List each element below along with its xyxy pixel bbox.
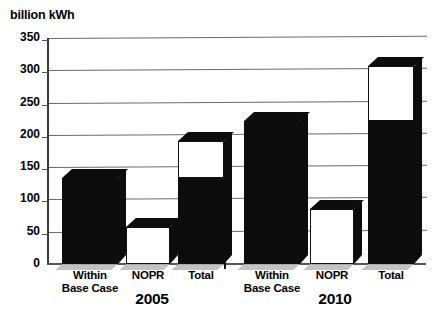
gridline (49, 36, 427, 39)
bar-side-face (300, 112, 308, 264)
bar (310, 209, 354, 264)
x-axis-label-line1: Total (354, 269, 428, 282)
bar-segment (310, 209, 354, 264)
bar-segment-lower (368, 121, 414, 264)
x-axis-group-label: 2005 (117, 290, 187, 308)
y-axis-tick-label: 50 (0, 224, 40, 238)
bar-segment-upper (368, 66, 414, 121)
bar-top-face (62, 169, 128, 178)
bar-segment (62, 178, 118, 264)
y-axis-tick-label: 100 (0, 191, 40, 205)
y-axis-tick-label: 250 (0, 95, 40, 109)
y-axis-tick-mark (42, 40, 48, 41)
bar-top-face (368, 57, 424, 66)
bar-side-face (118, 169, 126, 264)
x-axis-group-label: 2010 (300, 290, 370, 308)
y-axis-tick-label: 150 (0, 159, 40, 173)
x-axis-label-line1: Total (164, 269, 238, 282)
group-separator-tick (224, 258, 226, 269)
y-axis-tick-label: 350 (0, 30, 40, 44)
bar-side-face (354, 200, 362, 264)
bar (126, 227, 170, 264)
y-axis-tick-label: 200 (0, 127, 40, 141)
bar-segment (126, 227, 170, 264)
bar (368, 66, 414, 264)
chart-root: billion kWh 350300250200150100500 Within… (0, 0, 438, 317)
chart-axis-title: billion kWh (10, 8, 74, 22)
y-axis-tick-label: 300 (0, 62, 40, 76)
bar-side-face (414, 57, 422, 264)
bar-segment (244, 121, 300, 264)
x-axis-label: Total (354, 269, 428, 282)
bar (62, 178, 118, 264)
y-axis-tick-mark (42, 201, 48, 202)
y-axis-tick-mark (42, 72, 48, 73)
bar-segment-lower (178, 178, 224, 264)
bar-segment-upper (178, 141, 224, 178)
x-axis-label: Total (164, 269, 238, 282)
bar (244, 121, 300, 264)
y-axis-tick-label: 0 (0, 256, 40, 270)
y-axis-tick-mark (42, 137, 48, 138)
bar-side-face (224, 132, 232, 264)
y-axis-tick-mark (42, 234, 48, 235)
y-axis-tick-mark (42, 169, 48, 170)
bar (178, 141, 224, 264)
y-axis-tick-mark (42, 105, 48, 106)
bar-top-face (244, 112, 310, 121)
